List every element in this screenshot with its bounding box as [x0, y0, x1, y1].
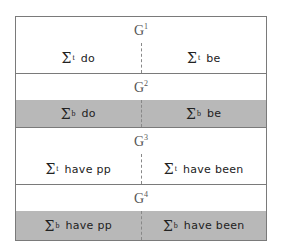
- group-row: Σtdo Σtbe: [16, 43, 266, 73]
- grammar-table: G1 Σtdo Σtbe G2 Σbdo Σbbe G3: [15, 16, 267, 241]
- cell-text: have been: [183, 163, 244, 176]
- table-cell: Σbhave been: [142, 211, 267, 240]
- group-row: Σbhave pp Σbhave been: [16, 211, 266, 240]
- group-g4: G4 Σbhave pp Σbhave been: [16, 184, 266, 240]
- group-label: G: [134, 191, 144, 206]
- group-superscript: 1: [144, 22, 148, 31]
- group-row: Σthave pp Σthave been: [16, 154, 266, 184]
- table-cell: Σtdo: [16, 43, 142, 73]
- group-label: G: [134, 80, 144, 95]
- group-g1: G1 Σtdo Σtbe: [16, 17, 266, 73]
- table-cell: Σthave pp: [16, 154, 142, 184]
- sigma-symbol: Σ: [163, 218, 173, 234]
- sigma-symbol: Σ: [62, 50, 72, 66]
- cell-text: have pp: [65, 219, 112, 232]
- group-superscript: 2: [144, 79, 148, 88]
- group-header: G1: [16, 17, 266, 43]
- table-cell: Σtbe: [142, 43, 267, 73]
- sigma-symbol: Σ: [45, 218, 55, 234]
- group-header: G4: [16, 185, 266, 211]
- cell-text: do: [81, 52, 95, 65]
- sigma-symbol: Σ: [187, 50, 197, 66]
- cell-text: do: [82, 107, 96, 120]
- cell-text: be: [206, 52, 220, 65]
- table-cell: Σbhave pp: [16, 211, 142, 240]
- group-g3: G3 Σthave pp Σthave been: [16, 127, 266, 184]
- cell-text: be: [207, 107, 221, 120]
- group-g2: G2 Σbdo Σbbe: [16, 73, 266, 127]
- sigma-symbol: Σ: [45, 161, 55, 177]
- cell-text: have pp: [65, 163, 112, 176]
- group-superscript: 4: [144, 190, 148, 199]
- group-label: G: [134, 23, 144, 38]
- group-row: Σbdo Σbbe: [16, 100, 266, 127]
- group-label: G: [134, 134, 144, 149]
- sigma-symbol: Σ: [61, 106, 71, 122]
- cell-text: have been: [184, 219, 245, 232]
- sigma-symbol: Σ: [186, 106, 196, 122]
- sigma-symbol: Σ: [164, 161, 174, 177]
- table-cell: Σbdo: [16, 100, 142, 127]
- group-header: G2: [16, 74, 266, 100]
- group-header: G3: [16, 128, 266, 154]
- table-cell: Σbbe: [142, 100, 267, 127]
- table-cell: Σthave been: [142, 154, 267, 184]
- group-superscript: 3: [144, 133, 148, 142]
